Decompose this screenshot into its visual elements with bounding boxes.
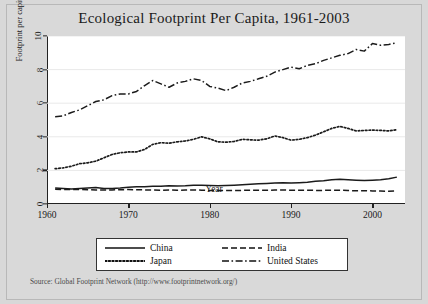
legend-item-china: China (105, 243, 222, 253)
series-line-japan (55, 126, 397, 168)
y-tick-mark (43, 170, 47, 171)
plot-lines (47, 36, 405, 204)
y-tick-mark (43, 35, 47, 36)
y-tick-mark (43, 103, 47, 104)
series-line-united-states (55, 43, 397, 117)
legend-swatch-dotted-icon (105, 257, 145, 265)
plot-container: 024681019601970198019902000 Footprint pe… (47, 36, 405, 204)
legend-label: India (267, 243, 287, 253)
y-axis-label: Footprint per capita, hectares (14, 0, 24, 72)
x-tick-label: 1990 (282, 210, 301, 220)
y-tick-label: 10 (33, 32, 43, 41)
legend-label: China (150, 243, 173, 253)
y-tick-mark (43, 136, 47, 137)
legend-item-india: India (222, 243, 339, 253)
legend-item-japan: Japan (105, 256, 222, 266)
chart-legend: ChinaIndiaJapanUnited States (96, 238, 348, 271)
x-tick-label: 1960 (38, 210, 57, 220)
legend-label: Japan (150, 256, 172, 266)
chart-page: Ecological Footprint Per Capita, 1961-20… (0, 0, 428, 304)
x-tick-mark (47, 204, 48, 208)
x-tick-mark (210, 204, 211, 208)
chart-title: Ecological Footprint Per Capita, 1961-20… (0, 10, 428, 27)
x-tick-mark (291, 204, 292, 208)
legend-item-united-states: United States (222, 256, 339, 266)
x-tick-label: 1970 (119, 210, 138, 220)
legend-swatch-solid-icon (105, 244, 145, 252)
x-tick-label: 2000 (363, 210, 382, 220)
legend-swatch-dashdot-icon (222, 257, 262, 265)
legend-label: United States (267, 256, 318, 266)
legend-swatch-dashed-icon (222, 244, 262, 252)
x-axis-label: Year (0, 184, 428, 194)
x-tick-mark (128, 204, 129, 208)
x-tick-mark (372, 204, 373, 208)
y-tick-mark (43, 69, 47, 70)
source-note: Source: Global Footprint Network (http:/… (30, 277, 237, 286)
x-tick-label: 1980 (200, 210, 219, 220)
